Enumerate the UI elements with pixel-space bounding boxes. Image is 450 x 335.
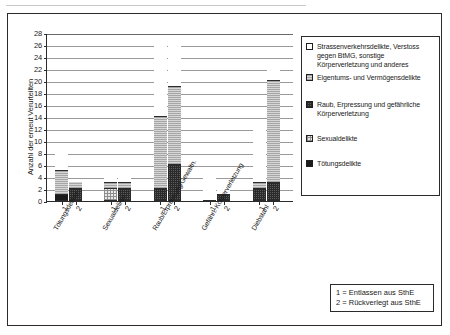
bar-segment <box>55 152 68 170</box>
x-subgroup-label-4-2: 2 <box>271 204 281 212</box>
bar-2-1[interactable] <box>154 45 167 201</box>
legend-item-3: Sexualdelikte <box>306 134 435 143</box>
bar-segment <box>154 44 167 116</box>
bar-segment <box>267 62 280 80</box>
bar-segment <box>118 176 131 182</box>
bar-1-1[interactable] <box>104 171 117 201</box>
y-tick-label-14: 14 <box>34 114 42 122</box>
screenshot-page: Anzahl der erneut Verurteilten 024681012… <box>0 0 450 335</box>
y-tick-label-16: 16 <box>34 102 42 110</box>
note-line-2: 2 = Rückverlegt aus SthE <box>336 298 428 308</box>
bar-3-1[interactable] <box>203 177 216 201</box>
x-subgroup-label-2-2: 2 <box>172 204 182 212</box>
bar-segment <box>104 188 117 200</box>
legend-item-4: Tötungsdelikte <box>306 159 435 168</box>
x-subgroup-label-3-2: 2 <box>222 204 232 212</box>
x-subgroup-label-0-2: 2 <box>74 204 84 212</box>
bar-2-2[interactable] <box>168 39 181 201</box>
bar-segment <box>55 194 68 200</box>
legend-item-label: Raub, Erpressung und gefährliche Körperv… <box>317 100 435 118</box>
legend-swatch-icon <box>306 160 313 167</box>
y-tick-label-12: 12 <box>34 126 42 134</box>
y-tick-0 <box>44 202 47 203</box>
y-tick-label-0: 0 <box>38 198 42 206</box>
legend-swatch-icon <box>306 135 313 142</box>
bar-segment <box>267 80 280 182</box>
bar-segment <box>168 38 181 86</box>
bar-segment <box>253 128 266 182</box>
plot-inner: 0246810121416182022242628 <box>47 34 293 201</box>
bar-segment <box>203 176 216 200</box>
bar-segment <box>118 182 131 188</box>
chart-legend: Strassenverkehrsdelikte, Verstoss gegen … <box>301 36 440 196</box>
legend-swatch-icon <box>306 101 313 108</box>
plot-area: 0246810121416182022242628 <box>46 34 293 202</box>
legend-item-0: Strassenverkehrsdelikte, Verstoss gegen … <box>306 42 435 69</box>
plot-wrapper: Anzahl der erneut Verurteilten 024681012… <box>46 34 293 219</box>
y-tick-label-22: 22 <box>34 66 42 74</box>
legend-item-label: Tötungsdelikte <box>317 159 435 168</box>
bar-4-1[interactable] <box>253 129 266 201</box>
bar-segment <box>55 170 68 194</box>
y-tick-label-20: 20 <box>34 78 42 86</box>
bar-segment <box>104 182 117 188</box>
y-tick-label-26: 26 <box>34 42 42 50</box>
bar-segment <box>154 188 167 200</box>
y-tick-label-28: 28 <box>34 30 42 38</box>
legend-item-2: Raub, Erpressung und gefährliche Körperv… <box>306 100 435 118</box>
legend-item-label: Eigentums- und Vermögensdelikte <box>317 73 435 82</box>
legend-item-label: Sexualdelikte <box>317 134 435 143</box>
bar-segment <box>253 188 266 200</box>
bar-segment <box>104 170 117 182</box>
figure-frame: Anzahl der erneut Verurteilten 024681012… <box>7 13 442 326</box>
legend-item-1: Eigentums- und Vermögensdelikte <box>306 73 435 82</box>
legend-swatch-icon <box>306 74 313 81</box>
y-tick-label-8: 8 <box>38 150 42 158</box>
bar-series-container <box>47 34 293 201</box>
bar-segment <box>168 86 181 164</box>
bar-4-2[interactable] <box>267 63 280 201</box>
note-line-1: 1 = Entlassen aus SthE <box>336 288 428 298</box>
page-top-rule <box>6 5 306 6</box>
bar-0-1[interactable] <box>55 153 68 201</box>
bar-segment <box>154 116 167 188</box>
y-tick-label-4: 4 <box>38 174 42 182</box>
bar-segment <box>253 182 266 188</box>
y-tick-label-18: 18 <box>34 90 42 98</box>
y-tick-label-2: 2 <box>38 186 42 194</box>
y-tick-label-10: 10 <box>34 138 42 146</box>
legend-item-label: Strassenverkehrsdelikte, Verstoss gegen … <box>317 42 435 69</box>
y-tick-label-6: 6 <box>38 162 42 170</box>
legend-note-box: 1 = Entlassen aus SthE 2 = Rückverlegt a… <box>330 284 434 312</box>
legend-swatch-icon <box>306 43 313 50</box>
bar-segment <box>267 182 280 200</box>
x-subgroup-label-1-2: 2 <box>123 204 133 212</box>
y-tick-label-24: 24 <box>34 54 42 62</box>
bar-segment <box>69 182 82 188</box>
